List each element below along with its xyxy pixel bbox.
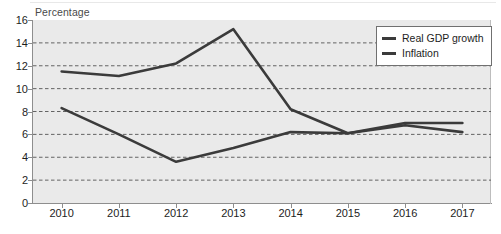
x-tick-mark xyxy=(233,203,234,208)
legend-swatch-inflation xyxy=(382,52,396,55)
legend-label-inflation: Inflation xyxy=(402,48,439,59)
chart-legend: Real GDP growth Inflation xyxy=(376,26,492,66)
y-tick-mark xyxy=(28,66,33,67)
y-tick-mark xyxy=(28,89,33,90)
x-tick-mark xyxy=(462,203,463,208)
y-tick-mark xyxy=(28,203,33,204)
y-tick-mark xyxy=(28,157,33,158)
x-tick-mark xyxy=(348,203,349,208)
legend-swatch-real-gdp-growth xyxy=(382,37,396,40)
y-tick-mark xyxy=(28,134,33,135)
x-tick-mark xyxy=(119,203,120,208)
legend-item-real-gdp-growth: Real GDP growth xyxy=(382,31,484,46)
x-tick-mark xyxy=(176,203,177,208)
legend-label-real-gdp-growth: Real GDP growth xyxy=(402,33,484,44)
y-tick-mark xyxy=(28,20,33,21)
x-tick-mark xyxy=(405,203,406,208)
legend-item-inflation: Inflation xyxy=(382,46,484,61)
y-tick-mark xyxy=(28,43,33,44)
series-line-real-gdp-growth xyxy=(62,108,463,162)
x-tick-mark xyxy=(62,203,63,208)
y-tick-mark xyxy=(28,112,33,113)
y-tick-mark xyxy=(28,180,33,181)
line-chart: Percentage 0246810121416 201020112012201… xyxy=(0,0,501,234)
x-tick-mark xyxy=(291,203,292,208)
